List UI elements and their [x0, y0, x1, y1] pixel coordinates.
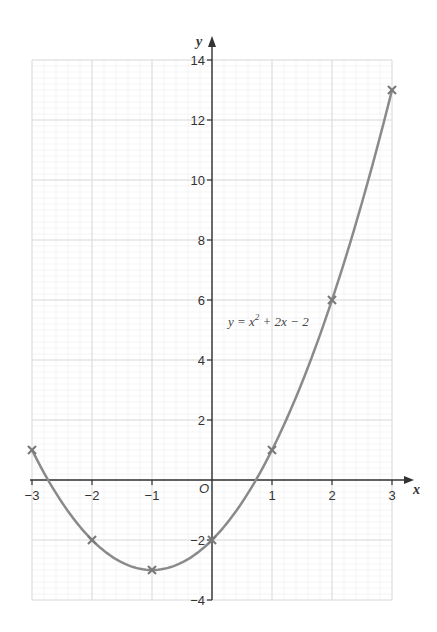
y-axis-arrow-icon	[208, 36, 216, 47]
x-axis-label: x	[412, 482, 420, 497]
y-tick-label: −4	[190, 593, 205, 608]
x-tick-label: −2	[85, 488, 100, 503]
equation-suffix: + 2x − 2	[259, 314, 309, 329]
y-tick-label: −2	[190, 533, 205, 548]
quadratic-graph: −3−2−1O123−4−22468101214 y x y = x2 + 2x…	[0, 0, 437, 632]
x-tick-label: −3	[25, 488, 40, 503]
x-tick-label: 3	[388, 488, 395, 503]
x-tick-label: −1	[145, 488, 160, 503]
y-tick-label: 6	[198, 293, 205, 308]
y-tick-label: 12	[191, 113, 205, 128]
x-tick-label: O	[199, 481, 209, 496]
x-tick-label: 1	[268, 488, 275, 503]
y-tick-label: 2	[198, 413, 205, 428]
y-axis-label: y	[194, 34, 203, 49]
equation-label: y = x2 + 2x − 2	[226, 312, 309, 329]
y-tick-label: 4	[198, 353, 205, 368]
x-tick-label: 2	[328, 488, 335, 503]
y-tick-label: 14	[191, 53, 205, 68]
y-tick-label: 10	[191, 173, 205, 188]
y-tick-label: 8	[198, 233, 205, 248]
equation-prefix: y = x	[226, 314, 255, 329]
